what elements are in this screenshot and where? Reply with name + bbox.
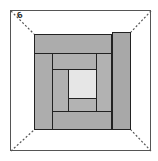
diagonal-top-right [131,11,151,32]
inner-top-strip [52,53,97,70]
inner-left-strip [52,69,69,112]
top-strip [34,34,112,54]
diagonal-bottom-left [11,130,34,151]
left-strip [34,53,53,130]
bottom-strip [52,111,112,130]
right-strip [112,32,131,130]
diagonal-bottom-right [131,130,151,151]
inner-bottom-strip [68,98,97,112]
inner-right-strip [96,53,112,112]
center-square [68,69,97,99]
